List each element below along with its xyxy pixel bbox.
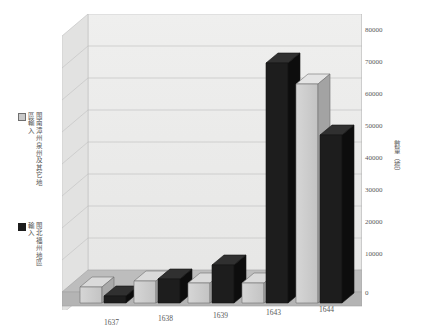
y-tick-30000: 30000	[365, 186, 383, 194]
y-tick-50000: 50000	[365, 122, 383, 130]
y-tick-0: 0	[365, 289, 369, 297]
x-tick-1638: 1638	[158, 314, 173, 323]
y-axis-title: 數量（擔）	[392, 140, 400, 175]
bar-1644-series-2[interactable]	[320, 125, 354, 303]
y-tick-60000: 60000	[365, 90, 383, 98]
chart-canvas	[62, 14, 362, 310]
x-tick-1644: 1644	[319, 305, 334, 314]
legend-label-series-2: 閩北福州地區輸入	[26, 222, 42, 268]
x-tick-1637: 1637	[104, 318, 119, 327]
bar-group-1638[interactable]	[134, 269, 192, 303]
chart-legend: 閩南漳州泉州及其它地區輸入 閩北福州地區輸入	[16, 112, 58, 268]
y-tick-10000: 10000	[365, 250, 383, 258]
x-tick-1639: 1639	[213, 311, 228, 320]
y-tick-20000: 20000	[365, 218, 383, 226]
legend-swatch-light-icon	[18, 113, 26, 121]
y-tick-40000: 40000	[365, 154, 383, 162]
legend-item-series-2[interactable]: 閩北福州地區輸入	[16, 222, 58, 268]
y-tick-80000: 80000	[365, 26, 383, 34]
legend-item-series-1[interactable]: 閩南漳州泉州及其它地區輸入	[16, 112, 58, 190]
chart-root: 閩南漳州泉州及其它地區輸入 閩北福州地區輸入	[0, 0, 423, 333]
x-tick-1643: 1643	[266, 308, 281, 317]
legend-swatch-dark-icon	[18, 223, 26, 231]
chart-side-wall	[62, 14, 88, 310]
bar-1643-series-2[interactable]	[266, 53, 300, 303]
bar-1639-series-2[interactable]	[212, 255, 246, 303]
plot-area	[62, 14, 362, 310]
y-tick-70000: 70000	[365, 58, 383, 66]
legend-label-series-1: 閩南漳州泉州及其它地區輸入	[26, 112, 42, 190]
